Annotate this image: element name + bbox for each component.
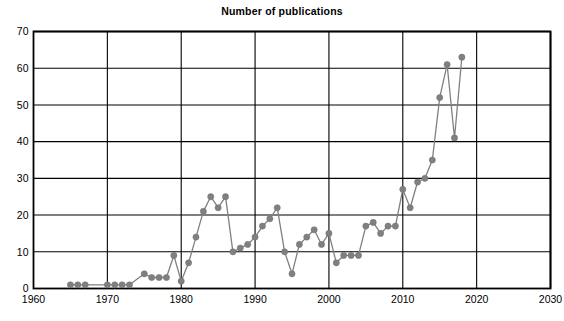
data-point-marker: [119, 282, 125, 288]
x-axis-tick-label: 2020: [465, 293, 489, 305]
data-point-marker: [459, 54, 465, 60]
data-point-marker: [333, 260, 339, 266]
data-point-marker: [341, 252, 347, 258]
data-point-marker: [378, 230, 384, 236]
y-axis-tick-label: 40: [17, 135, 29, 147]
data-point-marker: [451, 135, 457, 141]
x-axis-tick-label: 2010: [391, 293, 415, 305]
data-point-marker: [193, 234, 199, 240]
data-point-marker: [208, 194, 214, 200]
x-axis-tick-label: 2030: [539, 293, 563, 305]
data-point-marker: [348, 252, 354, 258]
data-point-marker: [400, 186, 406, 192]
data-point-marker: [186, 260, 192, 266]
x-axis-tick-label: 2000: [317, 293, 341, 305]
data-point-marker: [437, 94, 443, 100]
data-point-marker: [444, 61, 450, 67]
data-point-marker: [163, 274, 169, 280]
data-point-marker: [82, 282, 88, 288]
x-axis-tick-label: 1990: [243, 293, 267, 305]
data-point-marker: [311, 227, 317, 233]
chart-plot-area: 0102030405060701960197019801990200020102…: [0, 0, 564, 321]
data-point-marker: [237, 245, 243, 251]
data-point-marker: [259, 223, 265, 229]
data-point-marker: [392, 223, 398, 229]
data-point-marker: [370, 219, 376, 225]
data-point-marker: [245, 241, 251, 247]
data-point-marker: [67, 282, 73, 288]
data-point-marker: [141, 271, 147, 277]
data-point-marker: [200, 208, 206, 214]
data-point-marker: [112, 282, 118, 288]
x-axis-tick-label: 1960: [22, 293, 46, 305]
data-point-marker: [355, 252, 361, 258]
data-point-marker: [104, 282, 110, 288]
data-point-marker: [252, 234, 258, 240]
data-point-marker: [422, 175, 428, 181]
y-axis-tick-label: 10: [17, 246, 29, 258]
data-point-marker: [156, 274, 162, 280]
data-point-marker: [407, 205, 413, 211]
plot-frame: [34, 32, 551, 289]
data-point-marker: [385, 223, 391, 229]
data-point-marker: [414, 179, 420, 185]
y-axis-tick-label: 70: [17, 25, 29, 37]
x-axis-tick-label: 1980: [170, 293, 194, 305]
data-point-marker: [149, 274, 155, 280]
data-point-marker: [230, 249, 236, 255]
data-point-marker: [222, 194, 228, 200]
y-axis-tick-label: 60: [17, 62, 29, 74]
y-axis-tick-label: 30: [17, 172, 29, 184]
data-point-marker: [267, 216, 273, 222]
data-point-marker: [296, 241, 302, 247]
data-point-marker: [289, 271, 295, 277]
y-axis-tick-label: 20: [17, 209, 29, 221]
data-point-marker: [363, 223, 369, 229]
publications-chart: Number of publications 01020304050607019…: [0, 0, 564, 321]
data-point-marker: [126, 282, 132, 288]
data-point-marker: [304, 234, 310, 240]
data-point-marker: [429, 157, 435, 163]
data-point-marker: [282, 249, 288, 255]
data-point-marker: [215, 205, 221, 211]
data-point-marker: [274, 205, 280, 211]
y-axis-tick-label: 50: [17, 99, 29, 111]
data-point-marker: [75, 282, 81, 288]
data-point-marker: [318, 241, 324, 247]
data-point-marker: [178, 278, 184, 284]
data-point-marker: [326, 230, 332, 236]
x-axis-tick-label: 1970: [96, 293, 120, 305]
data-point-marker: [171, 252, 177, 258]
